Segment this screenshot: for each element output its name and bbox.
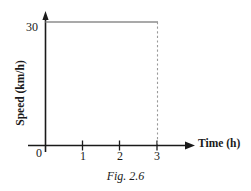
- x-axis-title: Time (h): [198, 138, 240, 150]
- origin-label: 0: [36, 147, 42, 159]
- y-axis-tick-label-30: 30: [26, 21, 38, 33]
- x-axis-tick-label-2: 2: [117, 150, 123, 162]
- y-axis-title: Speed (km/h): [14, 60, 26, 126]
- figure-caption: Fig. 2.6: [0, 170, 251, 182]
- x-axis-arrowhead: [185, 142, 195, 150]
- y-axis-arrowhead: [42, 11, 48, 20]
- figure-container: 30 0 1 2 3 Time (h) Speed (km/h) Fig. 2.…: [0, 0, 251, 191]
- y-axis-title-container: Speed (km/h): [0, 45, 40, 141]
- x-axis-tick-label-1: 1: [80, 150, 86, 162]
- x-axis-tick-label-3: 3: [154, 150, 160, 162]
